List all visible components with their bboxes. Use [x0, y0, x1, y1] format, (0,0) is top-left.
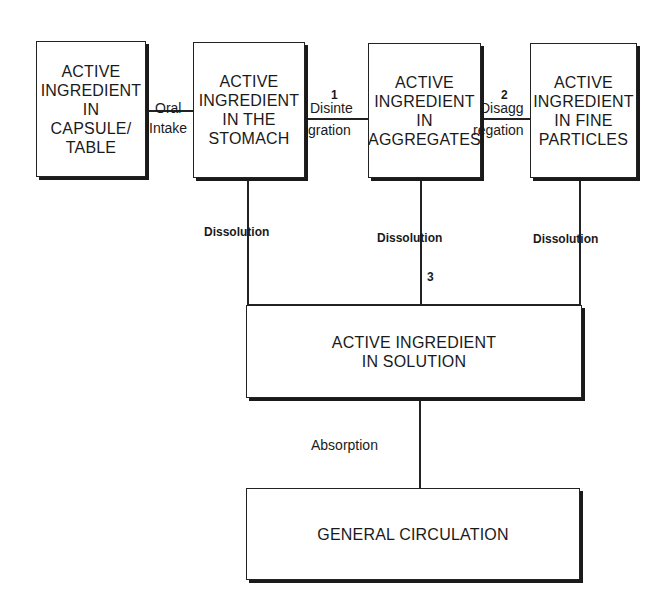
box-circulation: GENERAL CIRCULATION — [246, 488, 580, 580]
label-gration: gration — [308, 122, 351, 138]
box-fine-particles-label: ACTIVE INGREDIENT IN FINE PARTICLES — [533, 73, 634, 149]
connector-absorption — [419, 400, 421, 488]
label-intake: Intake — [149, 120, 187, 136]
label-dissolution-fine: Dissolution — [533, 231, 598, 247]
box-aggregates-label: ACTIVE INGREDIENT IN AGGREGATES — [368, 73, 481, 149]
connector-dissolution-stomach — [247, 180, 249, 306]
box-stomach: ACTIVE INGREDIENT IN THE STOMACH — [193, 42, 305, 178]
label-dissolution-aggregates: Dissolution — [377, 230, 442, 246]
label-disagg: Disagg — [480, 100, 524, 116]
label-oral: Oral — [155, 100, 181, 116]
box-capsule-label: ACTIVE INGREDIENT IN CAPSULE/ TABLE — [41, 62, 142, 157]
box-capsule: ACTIVE INGREDIENT IN CAPSULE/ TABLE — [36, 41, 146, 177]
label-dissolution-stomach: Dissolution — [204, 224, 269, 240]
box-circulation-label: GENERAL CIRCULATION — [317, 525, 508, 544]
box-stomach-label: ACTIVE INGREDIENT IN THE STOMACH — [199, 72, 300, 148]
box-solution: ACTIVE INGREDIENT IN SOLUTION — [246, 305, 582, 398]
label-step-3: 3 — [427, 270, 434, 284]
box-solution-label: ACTIVE INGREDIENT IN SOLUTION — [332, 333, 496, 371]
label-disinte: Disinte — [310, 100, 353, 116]
connector-disintegration — [305, 118, 368, 120]
box-fine-particles: ACTIVE INGREDIENT IN FINE PARTICLES — [530, 43, 637, 178]
label-absorption: Absorption — [311, 437, 378, 453]
label-regation: regation — [473, 122, 524, 138]
connector-disaggregation — [481, 118, 531, 120]
box-aggregates: ACTIVE INGREDIENT IN AGGREGATES — [368, 43, 481, 178]
